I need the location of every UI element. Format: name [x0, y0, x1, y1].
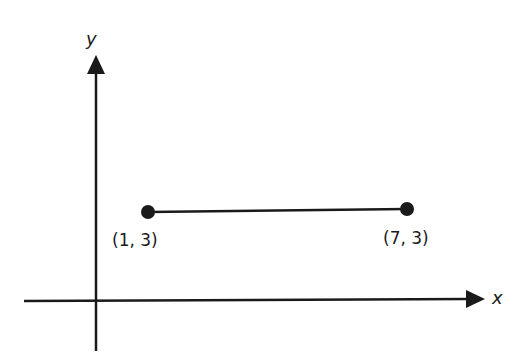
point-label-2: (7, 3): [383, 228, 429, 248]
y-axis-arrow-icon: [87, 55, 105, 74]
segment: [148, 209, 407, 212]
x-axis: [24, 299, 468, 301]
y-axis-label: y: [86, 28, 97, 49]
point-label-1: (1, 3): [112, 230, 158, 250]
x-axis-label: x: [492, 287, 503, 308]
point-1-3: [141, 205, 155, 219]
x-axis-arrow-icon: [466, 290, 485, 308]
coordinate-plane: [0, 0, 520, 364]
point-7-3: [400, 202, 414, 216]
